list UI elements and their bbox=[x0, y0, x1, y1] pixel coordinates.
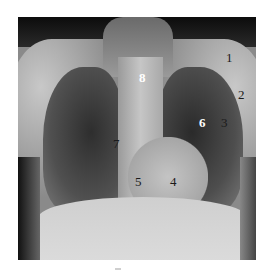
chest-xray-image bbox=[18, 17, 256, 260]
label-7: 7 bbox=[113, 137, 120, 150]
label-5: 5 bbox=[135, 175, 142, 188]
label-8: 8 bbox=[139, 71, 146, 84]
label-6: 6 bbox=[199, 116, 206, 129]
scan-artifact bbox=[115, 268, 121, 270]
right-edge bbox=[240, 157, 256, 260]
abdomen-region bbox=[38, 197, 248, 260]
label-4: 4 bbox=[170, 175, 177, 188]
label-3: 3 bbox=[221, 116, 228, 129]
left-edge bbox=[18, 157, 40, 260]
right-lung-field bbox=[43, 67, 123, 212]
label-2: 2 bbox=[238, 88, 245, 101]
label-1: 1 bbox=[226, 51, 233, 64]
